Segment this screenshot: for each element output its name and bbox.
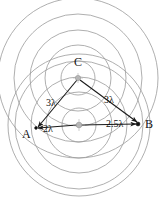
figure-canvas [0,0,166,206]
point-marker-a [35,127,38,130]
label-point-a: A [22,128,31,140]
ray-c-to-a [38,80,77,127]
label-distance-c-to-a: 3λ [46,98,56,108]
label-distance-source-to-b: 2.5λ [106,119,123,129]
label-distance-source-to-a: 2λ [43,124,53,134]
label-point-b: B [145,118,153,130]
source-marker-lower [73,119,85,131]
label-distance-c-to-b: 3λ [104,95,114,105]
point-marker-b [136,122,140,126]
label-point-c: C [74,56,82,68]
wave-interference-figure: C A B 3λ 3λ 2λ 2.5λ [0,0,166,206]
